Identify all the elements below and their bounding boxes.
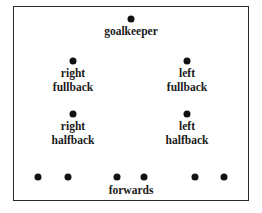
forward-dot-1 [35,174,42,181]
forward-dot-2 [65,174,72,181]
goalkeeper-label: goalkeeper [104,24,158,38]
left-fullback-dot [184,58,191,65]
forward-dot-3 [114,174,121,181]
forward-dot-5 [192,174,199,181]
right-fullback-dot [70,58,77,65]
right-fullback-label: rightfullback [53,66,93,94]
forwards-label: forwards [109,183,154,197]
right-halfback-dot [70,111,77,118]
forward-dot-4 [141,174,148,181]
forward-dot-6 [221,174,228,181]
right-halfback-label: righthalfback [52,119,95,147]
left-halfback-dot [184,111,191,118]
goalkeeper-dot [128,16,135,23]
left-halfback-label: lefthalfback [166,119,209,147]
left-fullback-label: leftfullback [167,66,207,94]
